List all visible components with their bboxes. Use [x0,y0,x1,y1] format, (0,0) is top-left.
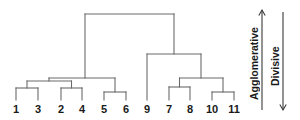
leaf-label-10: 10 [206,103,218,115]
leaf-label-3: 3 [35,103,41,115]
leaf-label-1: 1 [13,103,19,115]
agglomerative-axis-label: Agglomerative [249,24,260,100]
leaf-label-6: 6 [123,103,129,115]
leaf-label-11: 11 [228,103,240,115]
leaf-label-5: 5 [101,103,107,115]
leaf-label-8: 8 [187,103,193,115]
leaf-label-4: 4 [79,103,85,115]
divisive-axis-label: Divisive [270,38,281,86]
dendrogram-figure: 1324569781011 Agglomerative Divisive [0,0,300,120]
leaf-label-7: 7 [166,103,172,115]
leaf-label-9: 9 [144,103,150,115]
dendrogram-link-lines [16,14,234,100]
leaf-label-2: 2 [58,103,64,115]
